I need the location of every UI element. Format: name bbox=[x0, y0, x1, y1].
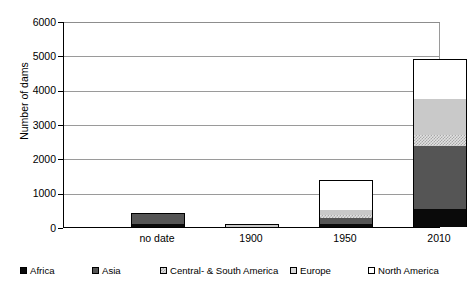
legend-label: North America bbox=[378, 265, 439, 276]
bar-column-no-date bbox=[131, 21, 185, 227]
north-america-swatch bbox=[368, 267, 375, 274]
chart-legend: AfricaAsiaCentral- & South AmericaEurope… bbox=[0, 262, 457, 278]
legend-item-Asia: Asia bbox=[92, 265, 121, 276]
europe-swatch bbox=[290, 267, 297, 274]
y-axis-tick-label-5000: 5000 bbox=[14, 51, 56, 61]
bar-segment-2010-Asia bbox=[413, 146, 467, 209]
bar-segment-2010-Central-South-America bbox=[413, 135, 467, 146]
y-axis-tick-label-6000: 6000 bbox=[14, 17, 56, 27]
legend-item-Europe: Europe bbox=[290, 265, 331, 276]
africa-swatch bbox=[20, 267, 27, 274]
plot-inner bbox=[64, 22, 440, 227]
bar-segment-1950-Africa bbox=[319, 224, 373, 227]
bar-column-1950 bbox=[319, 21, 373, 227]
legend-label: Central- & South America bbox=[170, 265, 278, 276]
bar-segment-1900-Europe bbox=[225, 225, 279, 226]
y-axis-tick-label-0: 0 bbox=[14, 223, 56, 233]
bar-segment-1950-Asia bbox=[319, 218, 373, 224]
legend-label: Europe bbox=[300, 265, 331, 276]
legend-label: Asia bbox=[102, 265, 121, 276]
legend-item-Africa: Africa bbox=[20, 265, 55, 276]
bar-segment-1950-Europe bbox=[319, 210, 373, 215]
bar-segment-2010-Europe bbox=[413, 99, 467, 135]
bar-segment-1950-North-America bbox=[319, 180, 373, 210]
y-axis-tick-label-3000: 3000 bbox=[14, 120, 56, 130]
y-axis-tick-label-1000: 1000 bbox=[14, 188, 56, 198]
bar-column-1900 bbox=[225, 21, 279, 227]
bar-segment-no-date-Asia bbox=[131, 214, 185, 224]
bar-segment-1950-Central-South-America bbox=[319, 215, 373, 217]
bar-segment-no-date-Africa bbox=[131, 224, 185, 227]
y-axis-tick-label-4000: 4000 bbox=[14, 85, 56, 95]
bar-segment-2010-Africa bbox=[413, 209, 467, 227]
x-axis-tick-label-2010: 2010 bbox=[384, 232, 471, 244]
bar-segment-1900-North-America bbox=[225, 224, 279, 226]
legend-item-Central-South-America: Central- & South America bbox=[160, 265, 278, 276]
plot-area bbox=[63, 22, 440, 228]
legend-item-North-America: North America bbox=[368, 265, 439, 276]
asia-swatch bbox=[92, 267, 99, 274]
y-axis-tick-mark-0 bbox=[58, 228, 63, 229]
central-south-america-swatch bbox=[160, 267, 167, 274]
bar-segment-no-date-North-America bbox=[131, 213, 185, 214]
bar-column-2010 bbox=[413, 21, 467, 227]
y-axis-tick-label-2000: 2000 bbox=[14, 154, 56, 164]
bar-segment-2010-North-America bbox=[413, 59, 467, 98]
legend-label: Africa bbox=[30, 265, 55, 276]
